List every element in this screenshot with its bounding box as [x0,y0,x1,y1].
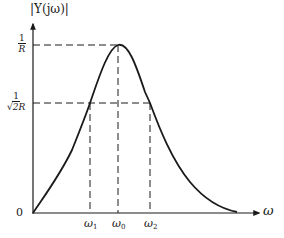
x-tick-subscript: 1 [93,223,97,231]
y-tick-denominator: R [18,44,25,54]
y-axis-label: |Y(jω)| [30,2,69,16]
origin-label: 0 [16,206,23,219]
x-tick-subscript: 0 [121,223,125,231]
magnitude-response-curve [33,45,237,213]
x-tick-omega2: ω2 [144,217,157,231]
y-tick-numerator: 1 [12,91,20,102]
x-tick-omega0: ω0 [112,217,125,231]
y-tick-numerator: 1 [18,33,26,44]
resonance-curve-figure: |Y(jω)| 1 R 1 √2R 0 ω1 ω0 ω2 ω [0,0,284,238]
x-tick-symbol: ω [144,217,153,230]
x-tick-subscript: 2 [153,223,157,231]
plot-canvas [0,0,284,238]
y-tick-one-over-r: 1 R [18,33,26,54]
x-axis-label: ω [263,203,274,218]
x-tick-symbol: ω [112,217,121,230]
x-tick-omega1: ω1 [84,217,97,231]
x-tick-symbol: ω [84,217,93,230]
y-tick-denominator: √2R [7,102,25,112]
y-tick-one-over-root2-r: 1 √2R [7,91,25,112]
